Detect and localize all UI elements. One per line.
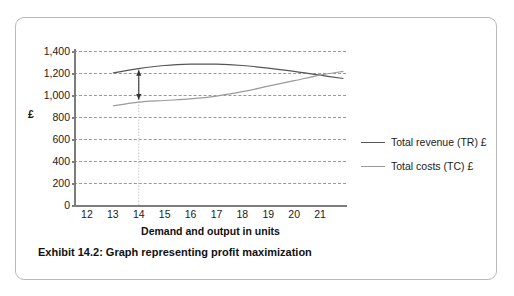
y-tick-label: 400 (20, 156, 70, 166)
x-tick-label: 12 (75, 208, 99, 220)
x-axis-label: Demand and output in units (74, 225, 347, 237)
x-tick-label: 20 (282, 208, 306, 220)
x-tick-label: 15 (153, 208, 177, 220)
legend-label: Total costs (TC) £ (391, 160, 473, 172)
y-tick-label: 1,000 (20, 90, 70, 100)
series-line (113, 71, 344, 106)
x-tick-label: 13 (101, 208, 125, 220)
series-line (113, 64, 344, 78)
chart-legend: Total revenue (TR) £Total costs (TC) £ (361, 136, 496, 184)
y-tick-label: 1,200 (20, 68, 70, 78)
x-tick-label: 17 (204, 208, 228, 220)
y-tick-label: 1,400 (20, 46, 70, 56)
x-tick-label: 18 (230, 208, 254, 220)
y-tick-label: 200 (20, 178, 70, 188)
series-lines (74, 51, 346, 205)
legend-swatch-icon (361, 142, 385, 143)
y-tick-label: 0 (20, 200, 70, 210)
x-tick-label: 14 (127, 208, 151, 220)
x-tick-label: 21 (308, 208, 332, 220)
x-axis-line (74, 205, 347, 207)
annotation-double-arrow (136, 70, 141, 99)
legend-swatch-icon (361, 166, 385, 167)
exhibit-figure: £ 02004006008001,0001,2001,400 121314151… (0, 0, 514, 296)
figure-card: £ 02004006008001,0001,2001,400 121314151… (15, 17, 497, 280)
y-tick-label: 800 (20, 112, 70, 122)
legend-item: Total costs (TC) £ (361, 160, 496, 172)
y-tick-label: 600 (20, 134, 70, 144)
x-tick-label: 19 (256, 208, 280, 220)
legend-item: Total revenue (TR) £ (361, 136, 496, 148)
chart-area: £ 02004006008001,0001,2001,400 121314151… (16, 18, 498, 281)
legend-label: Total revenue (TR) £ (391, 136, 487, 148)
x-tick-label: 16 (179, 208, 203, 220)
figure-caption: Exhibit 14.2: Graph representing profit … (38, 246, 312, 258)
